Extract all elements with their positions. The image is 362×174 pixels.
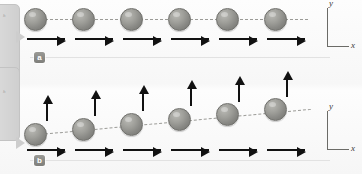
force-arrow-horizontal — [267, 149, 305, 151]
ball — [120, 8, 143, 31]
force-arrow-horizontal — [123, 38, 161, 40]
axis-x-label-b: x — [351, 144, 355, 153]
ball — [216, 103, 239, 126]
panel-badge-b: b — [34, 155, 45, 166]
axis-y-line-a — [327, 8, 328, 46]
panel-a: h y x a — [0, 0, 362, 87]
ball — [216, 8, 239, 31]
ball — [24, 8, 47, 31]
force-arrow-horizontal — [267, 38, 305, 40]
force-arrow-horizontal — [27, 149, 65, 151]
ball — [264, 98, 287, 121]
ball — [168, 108, 191, 131]
force-arrow-vertical — [46, 103, 48, 121]
force-arrow-horizontal — [75, 149, 113, 151]
axis-x-line-a — [327, 46, 349, 47]
force-arrow-horizontal — [75, 38, 113, 40]
axis-x-line-b — [327, 149, 349, 150]
axis-y-label-b: y — [329, 102, 333, 111]
force-arrow-horizontal — [171, 149, 209, 151]
force-arrow-vertical — [190, 88, 192, 106]
panel-badge-a: a — [34, 52, 45, 63]
panel-divider-a — [30, 57, 330, 58]
force-arrow-vertical — [286, 79, 288, 97]
panel-b: h y x b — [0, 87, 362, 174]
axis-y-line-b — [327, 111, 328, 149]
ball — [72, 118, 95, 141]
force-arrow-horizontal — [171, 38, 209, 40]
force-arrow-vertical — [94, 98, 96, 116]
launcher-block-b — [0, 67, 20, 141]
launcher-label-a: h — [3, 13, 6, 18]
force-arrow-horizontal — [27, 38, 65, 40]
ball — [264, 8, 287, 31]
launcher-label-b: h — [3, 89, 6, 94]
ball — [120, 113, 143, 136]
launcher-pointer-b — [16, 137, 25, 149]
force-arrow-vertical — [142, 93, 144, 111]
physics-figure: h y x a h — [0, 0, 362, 174]
launcher-pointer-a — [16, 31, 25, 43]
axis-y-label-a: y — [329, 0, 333, 8]
force-arrow-horizontal — [123, 149, 161, 151]
force-arrow-horizontal — [219, 38, 257, 40]
ball — [24, 123, 47, 146]
panel-divider-b — [30, 160, 330, 161]
force-arrow-vertical — [238, 84, 240, 102]
force-arrow-horizontal — [219, 149, 257, 151]
ball — [72, 8, 95, 31]
axis-x-label-a: x — [351, 41, 355, 50]
ball — [168, 8, 191, 31]
